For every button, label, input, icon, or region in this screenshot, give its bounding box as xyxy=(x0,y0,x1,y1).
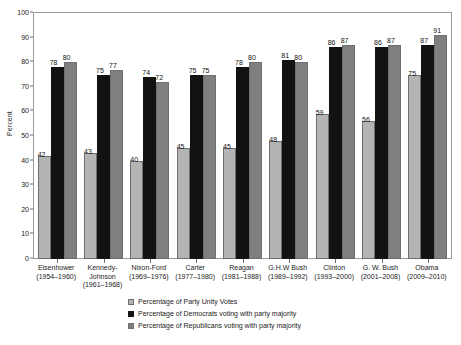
x-tick-mark xyxy=(289,259,290,263)
x-axis-label: G. W. Bush(2001–2008) xyxy=(355,264,405,281)
x-tick-mark xyxy=(428,259,429,263)
x-axis-label-line: Clinton xyxy=(323,264,345,271)
bar-dem xyxy=(236,67,249,259)
x-axis-label-line: (1954–1960) xyxy=(31,273,81,282)
y-tick-label-20: 20 xyxy=(21,205,29,212)
bar-unity xyxy=(408,75,421,260)
x-axis-label-line: Nixon-Ford xyxy=(132,264,167,271)
bar-value-label: 87 xyxy=(341,37,349,44)
legend-swatch-icon xyxy=(128,299,134,305)
x-axis-label: Nixon-Ford(1969–1976) xyxy=(124,264,174,281)
x-tick-mark xyxy=(104,259,105,263)
x-axis-label-line: (2001–2008) xyxy=(355,273,405,282)
chart-legend: Percentage of Party Unity VotesPercentag… xyxy=(128,296,428,332)
legend-item[interactable]: Percentage of Party Unity Votes xyxy=(128,296,428,307)
x-axis-label: Eisenhower(1954–1960) xyxy=(31,264,81,281)
bar-value-label: 48 xyxy=(269,136,277,143)
bar-rep xyxy=(110,70,123,259)
x-axis-label-line: (1977–1980) xyxy=(170,273,220,282)
bar-value-label: 80 xyxy=(248,54,256,61)
y-tick-label-60: 60 xyxy=(21,107,29,114)
x-tick-mark xyxy=(243,259,244,263)
y-tick-label-100: 100 xyxy=(17,9,29,16)
bar-value-label: 80 xyxy=(63,54,71,61)
bar-value-label: 42 xyxy=(38,151,46,158)
x-tick-mark xyxy=(150,259,151,263)
bar-rep xyxy=(434,35,447,259)
bar-rep xyxy=(249,62,262,259)
bar-unity xyxy=(84,153,97,259)
y-tick-label-10: 10 xyxy=(21,230,29,237)
x-axis-label-line: G.H.W Bush xyxy=(268,264,307,271)
bar-dem xyxy=(421,45,434,259)
bar-dem xyxy=(97,75,110,260)
x-axis-label-line: (1969–1976) xyxy=(124,273,174,282)
bar-unity xyxy=(177,148,190,259)
x-axis-label-line: (2009–2010) xyxy=(402,273,452,282)
bar-unity xyxy=(316,114,329,259)
x-tick-mark xyxy=(196,259,197,263)
bar-value-label: 80 xyxy=(294,54,302,61)
legend-swatch-icon xyxy=(128,311,134,317)
bar-value-label: 78 xyxy=(235,59,243,66)
x-tick-mark xyxy=(382,259,383,263)
x-axis-label-line: Johnson xyxy=(77,273,127,282)
bar-value-label: 75 xyxy=(189,67,197,74)
x-tick-mark xyxy=(57,259,58,263)
y-tick-label-50: 50 xyxy=(21,132,29,139)
bar-value-label: 87 xyxy=(387,37,395,44)
legend-item[interactable]: Percentage of Republicans voting with pa… xyxy=(128,320,428,331)
bar-rep xyxy=(64,62,77,259)
bar-dem xyxy=(143,77,156,259)
bar-dem xyxy=(282,60,295,259)
x-axis-label: Obama(2009–2010) xyxy=(402,264,452,281)
bar-group: 457880 xyxy=(223,13,262,259)
x-axis-label-line: Carter xyxy=(185,264,204,271)
y-tick-label-80: 80 xyxy=(21,58,29,65)
bar-group: 758791 xyxy=(408,13,447,259)
bar-rep xyxy=(203,75,216,260)
bar-group: 568687 xyxy=(362,13,401,259)
bar-dem xyxy=(375,47,388,259)
bar-unity xyxy=(38,156,51,259)
x-axis-label-line: (1989–1992) xyxy=(263,273,313,282)
bar-group: 437577 xyxy=(84,13,123,259)
bar-unity xyxy=(269,141,282,259)
x-axis-label-line: G. W. Bush xyxy=(363,264,398,271)
bar-unity xyxy=(223,148,236,259)
bar-value-label: 59 xyxy=(316,109,324,116)
y-axis-ticks: 0102030405060708090100 xyxy=(0,12,33,260)
bar-value-label: 86 xyxy=(328,39,336,46)
bar-group: 488180 xyxy=(269,13,308,259)
x-axis-label-line: Eisenhower xyxy=(38,264,75,271)
x-tick-mark xyxy=(335,259,336,263)
bar-rep xyxy=(342,45,355,259)
x-axis-label: Reagan(1981–1988) xyxy=(216,264,266,281)
x-axis-label-line: Obama xyxy=(415,264,438,271)
bar-value-label: 78 xyxy=(50,59,58,66)
bar-dem xyxy=(190,75,203,260)
bar-value-label: 75 xyxy=(96,67,104,74)
bar-value-label: 75 xyxy=(408,70,416,77)
x-axis-label-line: (1993–2000) xyxy=(309,273,359,282)
y-tick-label-30: 30 xyxy=(21,181,29,188)
bar-value-label: 75 xyxy=(202,67,210,74)
legend-item[interactable]: Percentage of Democrats voting with part… xyxy=(128,308,428,319)
bars-container: 4278804375774074724575754578804881805986… xyxy=(34,13,451,259)
bar-value-label: 74 xyxy=(142,69,150,76)
bar-value-label: 45 xyxy=(223,143,231,150)
bar-value-label: 86 xyxy=(374,39,382,46)
y-tick-label-0: 0 xyxy=(25,255,29,262)
x-axis-label-line: (1961–1968) xyxy=(77,281,127,290)
bar-chart: Percent 0102030405060708090100 427880437… xyxy=(0,0,461,345)
x-axis-label: Kennedy-Johnson(1961–1968) xyxy=(77,264,127,290)
bar-group: 427880 xyxy=(38,13,77,259)
y-tick-label-40: 40 xyxy=(21,156,29,163)
x-axis-label-line: Reagan xyxy=(229,264,254,271)
x-axis-label-line: (1981–1988) xyxy=(216,273,266,282)
bar-value-label: 87 xyxy=(420,37,428,44)
y-tick-label-70: 70 xyxy=(21,82,29,89)
legend-swatch-icon xyxy=(128,323,134,329)
bar-value-label: 91 xyxy=(433,27,441,34)
bar-value-label: 72 xyxy=(155,74,163,81)
